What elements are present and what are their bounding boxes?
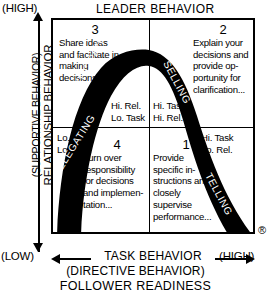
diagram-title: LEADER BEHAVIOR: [96, 2, 214, 16]
quadrant-2-number: 2: [193, 23, 253, 36]
quadrant-2: 2 Explain your decisions and provide op-…: [193, 23, 255, 96]
x-axis-label-primary: TASK BEHAVIOR: [91, 249, 215, 263]
quadrant-4-text: Turn over responsibility for decisions a…: [83, 152, 147, 211]
quadrant-3-rel-task: Hi. Rel. Lo. Task: [111, 100, 145, 124]
quadrant-2-text: Explain your decisions and provide op-po…: [193, 37, 255, 96]
x-axis-label-secondary: (DIRECTIVE BEHAVIOR): [0, 264, 271, 278]
arrow-down-icon: [33, 243, 43, 252]
quadrant-3-rel-line2: Lo. Task: [111, 112, 145, 124]
quadrant-1-rel-line1: Hi. Task: [201, 132, 233, 144]
quadrant-1-rel-line2: Lo. Rel.: [201, 144, 233, 156]
quadrant-2-rel-task: Hi. Task Hi. Rel.: [153, 100, 185, 124]
y-axis-label-secondary: (SUPPORTIVE BEHAVIOR): [31, 53, 42, 178]
footer-label: FOLLOWER READINESS: [0, 279, 271, 293]
quadrant-1-rel-task: Hi. Task Lo. Rel.: [201, 132, 233, 156]
quadrant-4-number: 4: [87, 138, 147, 151]
quadrant-grid: PARTICIPATING SELLING DELEGATING TELLING…: [51, 18, 255, 234]
quadrant-3-rel-line1: Hi. Rel.: [111, 100, 145, 112]
quadrant-4: 4 Turn over responsibility for decisions…: [83, 138, 147, 211]
quadrant-1-text: Provide specific in-structions and close…: [153, 152, 215, 222]
x-axis-high-label: (HIGH): [219, 250, 254, 262]
x-axis-low-label: (LOW): [1, 250, 34, 262]
quadrant-2-rel-line2: Hi. Rel.: [153, 112, 185, 124]
registered-trademark-icon: ®: [258, 224, 266, 236]
